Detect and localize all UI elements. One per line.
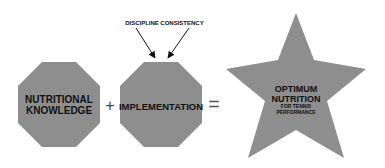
star-line4: PERFORMANCE [276, 109, 316, 115]
star-line1: OPTIMUM [275, 84, 318, 94]
nutritional-knowledge-octagon: NUTRITIONAL KNOWLEDGE [18, 62, 100, 147]
consistency-arrow-group: CONSISTENCY [160, 20, 203, 58]
consistency-label: CONSISTENCY [160, 20, 203, 26]
implementation-label: IMPLEMENTATION [119, 101, 203, 112]
discipline-label: DISCIPLINE [125, 20, 159, 26]
consistency-arrow-icon [168, 28, 189, 58]
optimum-nutrition-star: OPTIMUM NUTRITION FOR TENNIS PERFORMANCE [226, 13, 366, 158]
plus-operator: + [105, 97, 114, 114]
discipline-arrow-icon [136, 28, 155, 58]
nutritional-knowledge-line2: KNOWLEDGE [26, 105, 92, 116]
implementation-octagon: IMPLEMENTATION [119, 62, 203, 147]
discipline-arrow-group: DISCIPLINE [125, 20, 159, 58]
nutrition-equation-diagram: NUTRITIONAL KNOWLEDGE + IMPLEMENTATION D… [0, 0, 385, 168]
equals-operator: = [208, 93, 220, 115]
nutritional-knowledge-line1: NUTRITIONAL [25, 94, 93, 105]
